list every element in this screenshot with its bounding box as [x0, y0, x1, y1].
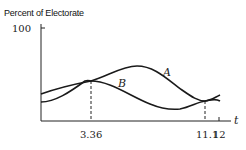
series-b-line	[41, 81, 220, 110]
series-b-label: B	[117, 77, 126, 90]
y-axis-label: Percent of Electorate	[4, 8, 84, 18]
x-axis-label: t	[234, 114, 239, 127]
series-a-line	[41, 66, 220, 101]
x-tick-label-12: 12	[213, 129, 226, 140]
chart: Percent of Electorate 100 t 3.36 11.1 12…	[0, 0, 246, 150]
series-a-label: A	[162, 66, 171, 79]
x-tick-label-3-36: 3.36	[80, 129, 102, 140]
y-tick-label-100: 100	[12, 23, 31, 34]
